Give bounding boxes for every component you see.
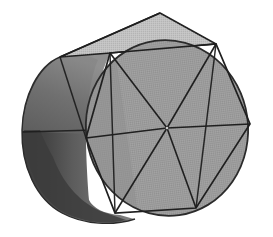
figure-root: Cylinder with inscribed hexagonal prism … bbox=[0, 0, 273, 237]
hexagon-center-point bbox=[165, 126, 168, 129]
cylinder-hexagonal-prism-figure: Cylinder with inscribed hexagonal prism … bbox=[0, 0, 273, 237]
